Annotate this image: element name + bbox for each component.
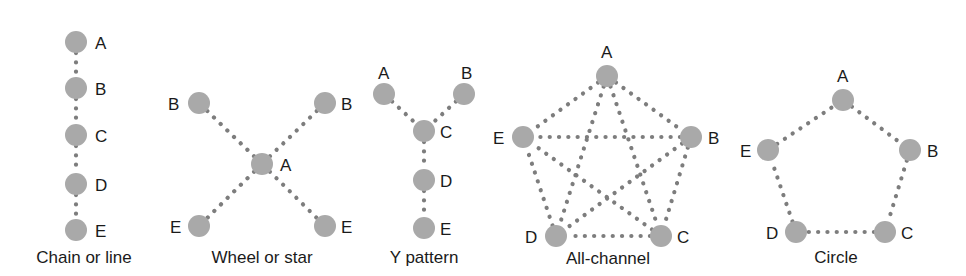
node-c [413, 120, 435, 142]
edge-a-d [559, 86, 603, 225]
node-b1 [188, 92, 210, 114]
node-label: C [95, 127, 107, 146]
node-label: C [677, 228, 689, 247]
network-caption: Y pattern [390, 248, 459, 267]
node-d [413, 169, 435, 191]
node-label: E [341, 218, 352, 237]
edge-b-c [888, 161, 907, 222]
node-a [65, 31, 87, 53]
network-circle: ABCDECircle [740, 67, 938, 267]
node-e [65, 219, 87, 241]
edge-a-b [852, 107, 901, 144]
node-label: A [95, 34, 107, 53]
node-b2 [314, 92, 336, 114]
node-label: E [440, 220, 451, 239]
node-label: B [341, 95, 352, 114]
node-a [251, 153, 273, 175]
network-chain: ABCDEChain or line [36, 31, 131, 267]
network-caption: Chain or line [36, 248, 131, 267]
node-label: E [170, 218, 181, 237]
node-label: D [525, 228, 537, 247]
node-e2 [314, 215, 336, 237]
node-label: B [461, 64, 472, 83]
node-label: B [95, 80, 106, 99]
node-label: D [766, 224, 778, 243]
node-a [596, 65, 618, 87]
edge-a-e2 [270, 172, 317, 219]
network-caption: All-channel [566, 249, 650, 268]
node-d [65, 173, 87, 195]
node-label: C [440, 123, 452, 142]
edge-a-b1 [207, 111, 254, 157]
node-label: A [378, 64, 390, 83]
node-e [512, 126, 534, 148]
node-e1 [188, 215, 210, 237]
node-label: A [837, 67, 849, 86]
edge-e-a [777, 106, 834, 144]
node-e [757, 139, 779, 161]
network-all-channel: ABCDEAll-channel [493, 43, 719, 268]
node-a [373, 83, 395, 105]
network-y-pattern: ABCDEY pattern [373, 64, 475, 267]
node-c [650, 225, 672, 247]
node-label: B [168, 95, 179, 114]
node-a [832, 89, 854, 111]
edge-a-e [532, 82, 598, 130]
network-caption: Wheel or star [211, 248, 312, 267]
node-b [65, 77, 87, 99]
node-label: E [740, 142, 751, 161]
edge-a-c [611, 86, 658, 225]
edge-a-e1 [207, 172, 254, 219]
edge-b-c [432, 101, 456, 123]
edge-d-e [772, 160, 793, 221]
node-b [899, 139, 921, 161]
edge-d-e [526, 147, 552, 225]
edge-a-b [616, 82, 682, 130]
node-c [874, 221, 896, 243]
node-label: B [927, 142, 938, 161]
node-b [680, 126, 702, 148]
network-caption: Circle [814, 248, 857, 267]
node-c [65, 124, 87, 146]
node-d [545, 225, 567, 247]
node-b [453, 83, 475, 105]
node-label: C [901, 224, 913, 243]
node-label: E [95, 222, 106, 241]
node-e [413, 217, 435, 239]
node-label: A [280, 156, 292, 175]
communication-networks-diagram: ABCDEChain or lineBBAEEWheel or starABCD… [0, 0, 966, 276]
node-label: A [601, 43, 613, 62]
network-wheel: BBAEEWheel or star [168, 92, 352, 267]
node-label: E [493, 129, 504, 148]
edge-a-b2 [270, 111, 317, 157]
node-label: D [440, 172, 452, 191]
node-label: B [708, 129, 719, 148]
edge-b-c [664, 148, 688, 226]
edge-a-c [392, 101, 416, 123]
node-label: D [95, 176, 107, 195]
node-d [785, 221, 807, 243]
